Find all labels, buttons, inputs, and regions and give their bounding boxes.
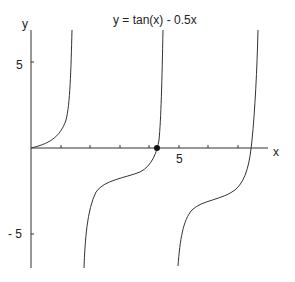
curve-branch-1 [31, 30, 72, 148]
x-axis-label: x [273, 146, 279, 158]
curve-branch-2 [84, 30, 163, 268]
y-tick-label-5: 5 [16, 59, 23, 71]
x-tick-label-5: 5 [176, 153, 183, 165]
root-point [154, 145, 160, 151]
chart-canvas [0, 0, 295, 282]
y-axis-label: y [22, 18, 28, 30]
y-tick-label-neg5: - 5 [8, 228, 22, 240]
chart-title: y = tan(x) - 0.5x [113, 14, 197, 26]
